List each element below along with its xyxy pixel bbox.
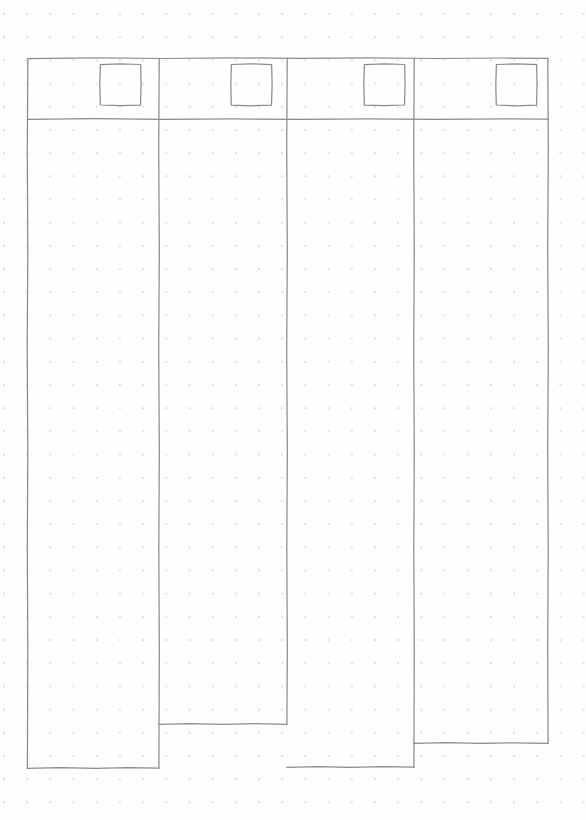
column-one[interactable] [27,119,159,768]
placeholder-square-4[interactable] [496,64,537,105]
placeholder-square-2[interactable] [231,64,272,105]
column-four[interactable] [414,119,548,743]
column-two[interactable] [159,119,287,724]
wireframe-canvas [0,0,586,820]
column-three[interactable] [287,119,414,767]
placeholder-square-3[interactable] [364,64,405,105]
placeholder-square-1[interactable] [100,64,141,105]
